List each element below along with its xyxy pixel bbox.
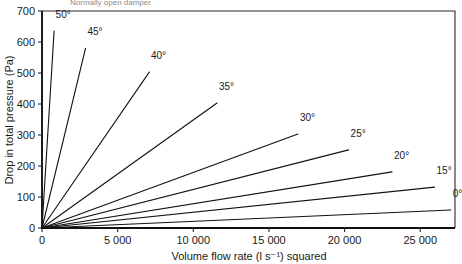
y-tick-label: 700 — [17, 5, 35, 17]
series-label-25deg: 25° — [351, 128, 366, 139]
x-tick-label: 15 000 — [252, 234, 286, 246]
figure-caption: Normally open damper — [70, 0, 151, 7]
x-tick-label: 25 000 — [403, 234, 437, 246]
x-tick-label: 20 000 — [328, 234, 362, 246]
y-axis-title: Drop in total pressure (Pa) — [3, 56, 15, 185]
series-label-30deg: 30° — [300, 112, 315, 123]
y-tick-label: 200 — [17, 160, 35, 172]
series-label-20deg: 20° — [394, 150, 409, 161]
y-tick-label: 500 — [17, 67, 35, 79]
series-label-35deg: 35° — [219, 81, 234, 92]
y-tick-label: 300 — [17, 129, 35, 141]
series-label-15deg: 15° — [437, 165, 452, 176]
x-tick-label: 5 000 — [104, 234, 132, 246]
series-label-50deg: 50° — [56, 9, 71, 20]
x-tick-label: 10 000 — [176, 234, 210, 246]
chart-figure: Normally open damper 0100200300400500600… — [0, 0, 462, 264]
series-label-0deg: 0° — [453, 188, 462, 199]
series-label-45deg: 45° — [87, 26, 102, 37]
series-label-40deg: 40° — [151, 50, 166, 61]
figure-background — [0, 0, 462, 264]
x-axis-title: Volume flow rate (l s⁻¹) squared — [171, 250, 326, 262]
y-tick-label: 600 — [17, 36, 35, 48]
y-tick-label: 400 — [17, 98, 35, 110]
y-tick-label: 100 — [17, 191, 35, 203]
y-tick-label: 0 — [29, 222, 35, 234]
x-tick-label: 0 — [39, 234, 45, 246]
